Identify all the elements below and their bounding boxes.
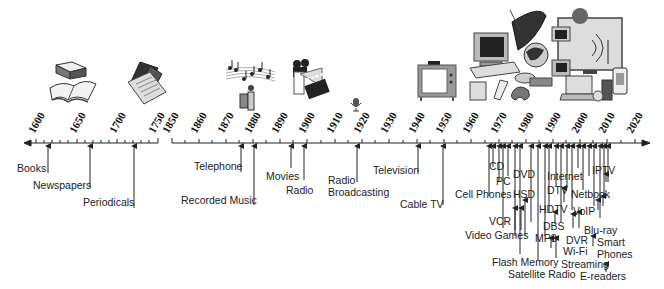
books-icon (50, 62, 96, 102)
event-label-voip: VoIP (573, 205, 595, 217)
event-label-movies: Movies (266, 170, 299, 182)
event-label-cable-tv: Cable TV (400, 198, 444, 210)
modern-devices-collage-icon (470, 8, 627, 101)
event-label-television: Television (373, 164, 419, 176)
event-label-periodicals: Periodicals (83, 196, 134, 208)
event-label-telephone: Telephone (194, 160, 242, 172)
event-label-newspapers: Newspapers (33, 179, 91, 191)
event-label-dvd: DVD (513, 168, 535, 180)
event-label-cell-phones: Cell Phones (455, 188, 512, 200)
axis-left-arrowhead-icon (24, 140, 31, 146)
television-icon (418, 61, 456, 101)
event-label-netbook: Netbook (571, 188, 610, 200)
event-label-recorded-music: Recorded Music (181, 194, 257, 206)
event-label-video-games: Video Games (465, 229, 528, 241)
event-label-pc: PC (496, 175, 511, 187)
event-label-radio-broadcasting-line2: Broadcasting (328, 186, 389, 198)
event-label-dbs: DBS (543, 220, 565, 232)
event-label-internet: Internet (547, 170, 583, 182)
event-label-hsd: HSD (513, 188, 535, 200)
axis-segment-1600-1750 (24, 138, 158, 146)
axis-right-arrowhead-icon (642, 140, 650, 146)
event-label-vcr: VCR (489, 215, 511, 227)
event-label-books: Books (17, 162, 46, 174)
event-label-mp3: MP3 (535, 232, 557, 244)
event-label-flash-memory: Flash Memory (492, 256, 559, 268)
event-label-bluray: Blu-ray (584, 224, 617, 236)
event-label-radio: Radio (286, 184, 313, 196)
event-label-cd: CD (489, 160, 504, 172)
event-label-iptv: IPTV (592, 164, 615, 176)
axis-segment-1850-2020 (172, 138, 650, 146)
newspapers-icon (128, 62, 166, 104)
phonograph-icon (240, 85, 254, 110)
event-label-hdtv: HDTV (539, 203, 568, 215)
event-label-smart-phones-line2: Phones (597, 248, 633, 260)
media-timeline: 1600 1650 1700 1750 1850 1860 1870 1880 … (0, 0, 664, 289)
microphone-icon (351, 98, 361, 111)
event-label-radio-broadcasting-line1: Radio (328, 174, 355, 186)
event-label-smart-phones-line1: Smart (597, 236, 625, 248)
event-label-dtv: DTV (547, 184, 568, 196)
event-label-ereaders: E-readers (580, 270, 626, 282)
music-notes-icon (226, 60, 275, 81)
event-label-wifi: Wi-Fi (563, 245, 588, 257)
film-camera-icon (293, 59, 330, 99)
event-pointers (48, 146, 608, 272)
